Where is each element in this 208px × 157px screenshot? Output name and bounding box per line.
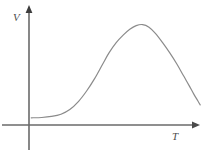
x-axis-label: T [172,131,178,142]
y-axis-label: V [13,12,20,23]
y-axis-arrowhead [26,5,33,13]
data-curve [31,25,200,118]
graph-figure: V T [0,0,208,157]
x-axis-arrowhead [192,122,200,129]
